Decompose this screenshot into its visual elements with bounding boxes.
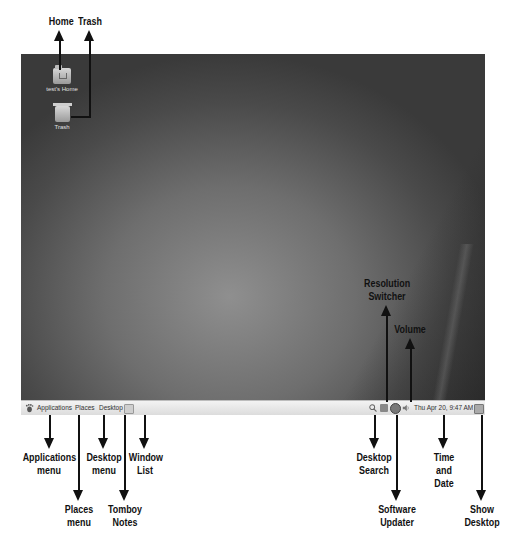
arrow-icon: [44, 438, 54, 449]
tomboy-notes-icon[interactable]: [124, 404, 134, 414]
annotation-home: Home: [49, 15, 69, 28]
leader-line: [410, 348, 412, 402]
arrow-icon: [98, 438, 108, 449]
window-list[interactable]: [137, 404, 143, 412]
leader-line: [89, 40, 91, 117]
annotation-line: menu: [63, 516, 95, 529]
annotation-volume: Volume: [394, 323, 426, 336]
arrow-icon: [119, 490, 129, 501]
annotation-desktop-menu: Desktop menu: [86, 451, 122, 477]
annotation-line: Switcher: [364, 290, 410, 303]
places-menu[interactable]: Places: [75, 404, 95, 411]
annotation-applications-menu: Applications menu: [23, 451, 76, 477]
annotation-places-menu: Places menu: [63, 503, 95, 529]
desktop-icon-label: Trash: [42, 124, 82, 130]
annotation-resolution-switcher: Resolution Switcher: [364, 277, 410, 303]
leader-line: [78, 415, 80, 492]
applications-menu[interactable]: Applications: [37, 404, 72, 411]
annotation-line: Time: [430, 451, 457, 464]
leader-line: [443, 415, 445, 440]
annotation-time-and-date: Time and Date: [430, 451, 457, 490]
volume-icon[interactable]: [402, 404, 410, 412]
annotation-line: Updater: [376, 516, 419, 529]
home-folder-icon: [53, 68, 71, 84]
desktop-icon-trash[interactable]: Trash: [42, 106, 82, 130]
annotation-line: Resolution: [364, 277, 410, 290]
show-desktop-icon[interactable]: [474, 404, 484, 414]
arrow-icon: [73, 490, 83, 501]
leader-line: [144, 415, 146, 440]
clock[interactable]: Thu Apr 20, 9:47 AM: [414, 404, 473, 411]
annotation-line: Search: [355, 464, 392, 477]
annotation-tomboy-notes: Tomboy Notes: [107, 503, 143, 529]
gnome-foot-icon[interactable]: [25, 403, 34, 413]
annotation-show-desktop: Show Desktop: [463, 503, 500, 529]
annotation-line: Date: [430, 477, 457, 490]
arrow-icon: [438, 438, 448, 449]
desktop-icon-home[interactable]: test's Home: [42, 68, 82, 92]
annotation-line: Notes: [107, 516, 143, 529]
arrow-icon: [476, 490, 486, 501]
trash-icon: [55, 106, 70, 122]
arrow-icon: [139, 438, 149, 449]
annotation-line: Tomboy: [107, 503, 143, 516]
annotation-line: Places: [63, 503, 95, 516]
resolution-icon[interactable]: [380, 404, 388, 412]
annotation-line: Software: [376, 503, 419, 516]
annotation-line: Desktop: [463, 516, 500, 529]
leader-line: [386, 315, 388, 402]
annotation-line: Applications: [23, 451, 76, 464]
leader-line: [374, 415, 376, 440]
annotation-line: List: [129, 464, 161, 477]
updater-icon[interactable]: [390, 403, 401, 414]
annotation-line: and: [430, 464, 457, 477]
annotation-line: Desktop: [355, 451, 392, 464]
annotation-line: Desktop: [86, 451, 122, 464]
leader-line: [396, 415, 398, 492]
leader-line: [124, 415, 126, 492]
annotation-desktop-search: Desktop Search: [355, 451, 392, 477]
arrow-icon: [391, 490, 401, 501]
leader-line: [59, 40, 61, 70]
annotation-line: Window: [129, 451, 161, 464]
desktop-icon-label: test's Home: [42, 86, 82, 92]
annotation-line: Show: [463, 503, 500, 516]
arrow-icon: [369, 438, 379, 449]
wallpaper-streak: [425, 244, 485, 400]
leader-line: [71, 116, 91, 118]
annotation-line: menu: [23, 464, 76, 477]
bottom-panel: Applications Places Desktop Thu Apr 20, …: [21, 400, 485, 415]
leader-line: [49, 415, 51, 440]
leader-line: [103, 415, 105, 440]
search-icon[interactable]: [369, 404, 377, 412]
annotation-line: menu: [86, 464, 122, 477]
desktop-background[interactable]: test's Home Trash: [21, 54, 485, 400]
annotation-trash: Trash: [78, 15, 102, 28]
desktop-menu[interactable]: Desktop: [99, 404, 123, 411]
annotation-software-updater: Software Updater: [376, 503, 419, 529]
annotation-window-list: Window List: [129, 451, 161, 477]
leader-line: [481, 415, 483, 492]
